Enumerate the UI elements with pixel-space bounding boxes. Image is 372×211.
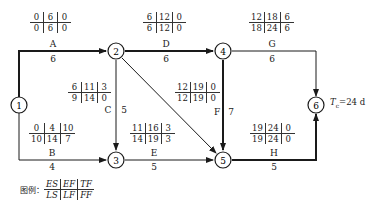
svg-text:6: 6 xyxy=(313,101,319,111)
time-params-F: 12190 12190 xyxy=(175,82,220,103)
time-params-B: 0410 10147 xyxy=(29,123,75,144)
activity-name-B: B xyxy=(42,148,62,158)
node-6: 6 xyxy=(308,97,324,113)
activity-duration-F: 7 xyxy=(221,107,241,117)
activity-duration-C: 5 xyxy=(114,105,134,115)
activity-duration-H: 5 xyxy=(264,162,284,172)
activity-name-G: G xyxy=(262,39,282,49)
time-params-C: 6113 9140 xyxy=(68,82,111,103)
project-duration-label: Tc=24 d xyxy=(330,97,365,109)
svg-text:5: 5 xyxy=(220,156,226,166)
time-params-A: 060 060 xyxy=(30,12,71,33)
time-params-E: 11163 14193 xyxy=(130,123,175,144)
time-params-G: 12186 18246 xyxy=(249,12,294,33)
activity-name-D: D xyxy=(156,39,176,49)
node-2: 2 xyxy=(108,43,124,59)
time-params-H: 19240 19240 xyxy=(250,123,295,144)
node-3: 3 xyxy=(108,152,124,168)
svg-text:4: 4 xyxy=(220,47,226,57)
activity-name-H: H xyxy=(264,148,284,158)
legend: 图例： ESEFTF LSLFFF xyxy=(20,179,94,200)
activity-duration-G: 6 xyxy=(262,54,282,64)
activity-name-A: A xyxy=(43,39,63,49)
node-1: 1 xyxy=(11,97,27,113)
activity-duration-A: 6 xyxy=(43,54,63,64)
legend-table: ESEFTF LSLFFF xyxy=(44,179,94,200)
activity-name-E: E xyxy=(144,148,164,158)
svg-text:1: 1 xyxy=(16,101,22,111)
activity-duration-B: 4 xyxy=(42,162,62,172)
svg-text:3: 3 xyxy=(113,156,119,166)
activity-duration-D: 6 xyxy=(156,54,176,64)
node-5: 5 xyxy=(215,152,231,168)
svg-text:2: 2 xyxy=(113,47,119,57)
time-params-D: 6120 6120 xyxy=(143,12,186,33)
legend-title: 图例： xyxy=(20,184,44,195)
activity-duration-E: 5 xyxy=(144,162,164,172)
node-4: 4 xyxy=(215,43,231,59)
